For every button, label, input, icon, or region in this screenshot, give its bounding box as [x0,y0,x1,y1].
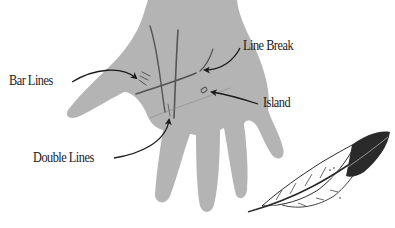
label-double-lines: Double Lines [33,150,94,165]
palm-lines-diagram: Bar Lines Line Break Island Double Lines [0,0,395,228]
label-line-break: Line Break [243,38,293,53]
hand-illustration [0,0,395,228]
label-bar-lines: Bar Lines [9,73,53,88]
label-island: Island [263,95,290,110]
